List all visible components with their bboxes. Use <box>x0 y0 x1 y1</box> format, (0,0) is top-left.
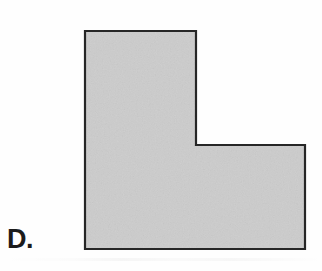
option-label-d: D. <box>7 224 33 254</box>
figure-container: D. <box>0 0 322 271</box>
l-shape-figure <box>0 0 322 271</box>
